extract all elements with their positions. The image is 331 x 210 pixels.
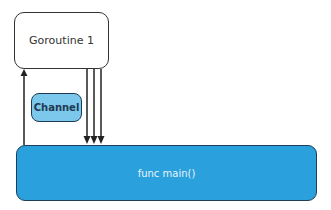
main-label: func main() [138,168,196,179]
channel-node: Channel [31,93,82,122]
up-arrow [21,69,28,145]
goroutine-node: Goroutine 1 [14,12,109,69]
down-arrows [87,69,101,137]
main-node: func main() [16,145,317,201]
channel-label: Channel [34,102,80,113]
goroutine-label: Goroutine 1 [29,34,94,47]
